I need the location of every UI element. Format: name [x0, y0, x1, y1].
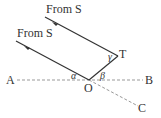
- label-c: C: [138, 101, 146, 115]
- label-a: A: [6, 73, 15, 87]
- label-from-s-upper: From S: [46, 2, 82, 16]
- line-oc: [89, 80, 138, 106]
- ray-lower: [16, 41, 89, 80]
- label-t: T: [119, 47, 127, 61]
- label-from-s-lower: From S: [17, 26, 53, 40]
- angle-alpha: α: [71, 70, 77, 81]
- label-o: O: [84, 81, 93, 95]
- angle-beta: β: [99, 70, 105, 81]
- label-b: B: [145, 73, 153, 87]
- reflection-diagram: From S From S T A B O C α β γ: [0, 0, 161, 118]
